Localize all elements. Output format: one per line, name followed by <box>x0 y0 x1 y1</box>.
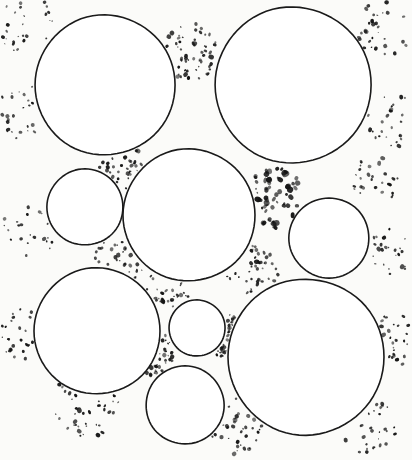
grain-circle: grain-bottom-left (r=63) <box>34 268 160 394</box>
circle-packing-diagram: Circle packing with interstitial stipple… <box>0 0 412 460</box>
grain-circle: grain-bottom-mid (r=39) <box>146 366 224 444</box>
grain-circle: grain-center-tiny (r=28) <box>169 300 225 356</box>
stipple-dot <box>158 298 159 300</box>
grain-circle: grain-top-left (r=70) <box>35 15 175 155</box>
stipple-dot <box>217 350 219 352</box>
figure-canvas: Circle packing with interstitial stipple… <box>0 0 412 460</box>
stipple-dot <box>19 223 23 226</box>
grain-circle: grain-bottom-right (r=78) <box>228 279 384 435</box>
stipple-dot <box>82 412 85 415</box>
grain-circle: grain-left-small (r=38) <box>47 169 123 245</box>
grain-circle: grain-right-mid (r=40) <box>289 198 369 278</box>
stipple-dot <box>117 177 120 180</box>
stipple-dot <box>256 267 259 271</box>
grain-circle: grain-center (r=66) <box>123 149 255 281</box>
grain-circle: grain-top-right (r=78) <box>215 7 371 163</box>
